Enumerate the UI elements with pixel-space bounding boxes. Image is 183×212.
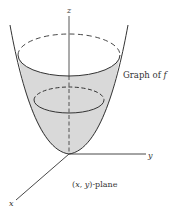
graph-of-f-label: Graph of f [123, 70, 169, 80]
graph-label-fn: f [163, 70, 169, 80]
xy-plane-label: (x, y)-plane [72, 180, 118, 189]
z-axis-label: z [66, 6, 72, 15]
paraboloid-diagram: z y x Graph of f (x, y)-plane [0, 0, 183, 212]
graph-label-prefix: Graph of [123, 70, 164, 80]
plane-rest: )-plane [89, 180, 117, 189]
y-axis-label: y [147, 151, 153, 160]
x-axis-label: x [9, 199, 14, 208]
x-axis [16, 154, 69, 200]
